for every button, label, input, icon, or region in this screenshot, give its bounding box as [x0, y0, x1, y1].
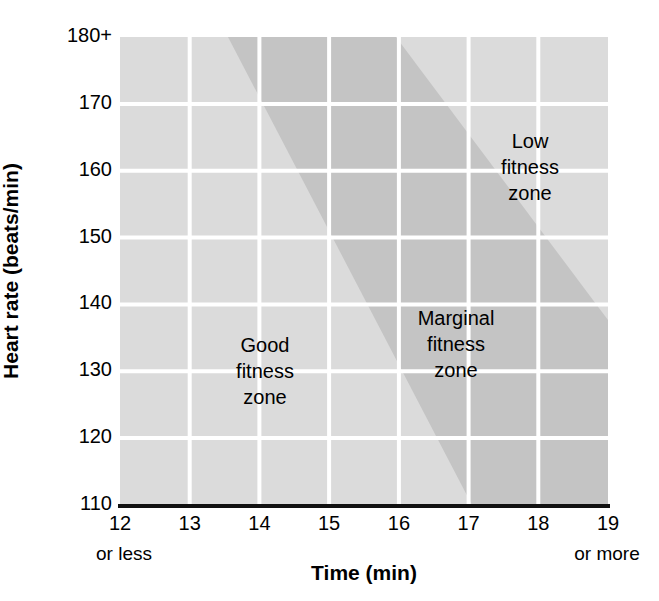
- zone-label-line: Low: [501, 128, 559, 154]
- zone-label-line: zone: [418, 357, 495, 383]
- x-tick-label: 14: [248, 512, 270, 535]
- zone-label-line: zone: [501, 180, 559, 206]
- zone-label-good-fitness: Good fitness zone: [236, 332, 294, 410]
- zone-label-line: Good: [236, 332, 294, 358]
- fitness-zone-chart: 110 120 130 140 150 160 170 180+ 12 13 1…: [0, 0, 659, 601]
- x-axis-tick-labels: 12 13 14 15 16 17 18 19 or less or more: [0, 0, 659, 601]
- x-tick-sublabel-first: or less: [96, 543, 152, 565]
- x-tick-sublabel-last: or more: [574, 543, 639, 565]
- zone-label-line: fitness: [501, 154, 559, 180]
- x-tick-label: 19: [597, 512, 619, 535]
- x-tick-label: 16: [388, 512, 410, 535]
- zone-label-line: Marginal: [418, 305, 495, 331]
- x-tick-label: 17: [457, 512, 479, 535]
- zone-label-line: fitness: [418, 331, 495, 357]
- x-tick-label: 13: [179, 512, 201, 535]
- x-axis-title: Time (min): [311, 561, 417, 585]
- y-axis-title: Heart rate (beats/min): [0, 163, 23, 379]
- x-tick-label: 18: [527, 512, 549, 535]
- zone-label-low-fitness: Low fitness zone: [501, 128, 559, 206]
- zone-label-line: fitness: [236, 358, 294, 384]
- x-tick-label: 12: [109, 512, 131, 535]
- zone-label-line: zone: [236, 384, 294, 410]
- zone-label-marginal-fitness: Marginal fitness zone: [418, 305, 495, 383]
- x-tick-label: 15: [318, 512, 340, 535]
